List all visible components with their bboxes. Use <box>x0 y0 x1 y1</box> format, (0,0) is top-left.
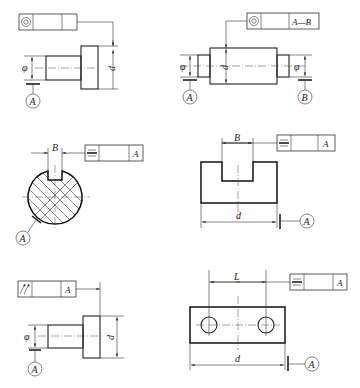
tolerance-frame: A <box>277 135 335 151</box>
flange-section <box>81 46 98 89</box>
tolerance-frame: A <box>290 274 347 290</box>
datum-a-label: A <box>19 233 27 244</box>
dim-label-d: d <box>219 64 230 70</box>
gdt-diagram-sheet: d φ A A—B d <box>0 0 360 388</box>
slot-block-outline <box>201 162 277 203</box>
tolerance-frame: A <box>18 281 76 297</box>
datum-a-label: A <box>31 364 39 375</box>
datum-a-label: A <box>303 216 311 227</box>
dim-label-phi: φ <box>24 331 30 342</box>
figure-symmetry-two-holes: A L d A <box>190 270 347 371</box>
dim-label-b: B <box>52 142 58 153</box>
datum-ref-a-b: A—B <box>291 17 312 27</box>
figure-symmetry-slot-block: A B d A <box>201 132 335 229</box>
figure-concentricity-common-axis: A—B d φ A φ B <box>180 13 319 104</box>
leader-line <box>77 22 113 46</box>
datum-ref: A <box>336 278 343 288</box>
dim-label-phi-left: φ <box>180 61 186 72</box>
dim-label-d: d <box>106 65 117 71</box>
tolerance-frame: A <box>85 145 143 161</box>
tolerance-frame: A—B <box>247 13 319 29</box>
datum-a-label: A <box>308 359 316 370</box>
leader-line <box>226 21 247 48</box>
dim-label-b: B <box>234 132 240 143</box>
flange-section <box>83 316 100 358</box>
hatch-pattern <box>0 160 120 240</box>
datum-a-label: A <box>29 96 37 107</box>
dim-label-d: d <box>235 353 241 364</box>
datum-b-label: B <box>302 92 308 103</box>
datum-ref: A <box>322 139 329 149</box>
figure-runout-shaft: A d φ A <box>18 281 124 376</box>
dim-label-d: d <box>236 210 242 221</box>
dim-label-phi-right: φ <box>294 61 300 72</box>
dim-label-d: d <box>105 334 116 340</box>
dim-label-phi: φ <box>22 62 28 73</box>
tolerance-frame <box>19 14 77 30</box>
datum-a-label: A <box>186 92 194 103</box>
datum-ref: A <box>64 285 71 295</box>
dim-label-l: L <box>233 271 240 282</box>
figure-symmetry-keyway-shaft: A B A <box>0 142 143 245</box>
figure-concentricity-single: d φ A <box>19 14 118 108</box>
datum-ref: A <box>132 149 139 159</box>
